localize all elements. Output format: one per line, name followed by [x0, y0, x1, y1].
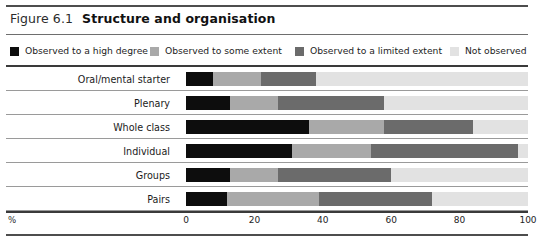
x-axis-unit-label: % [8, 215, 16, 225]
bar-category-label: Plenary [0, 91, 178, 115]
bar-segment[interactable] [186, 168, 230, 182]
chart-bar-row: Plenary [0, 91, 534, 115]
legend-item-label: Observed to some extent [165, 46, 282, 55]
legend-swatch-not-observed [450, 47, 459, 56]
chart-bar-row: Groups [0, 163, 534, 187]
chart-bar-row: Individual [0, 139, 534, 163]
stacked-bar[interactable] [186, 72, 528, 86]
bar-category-label: Pairs [0, 187, 178, 211]
legend-item[interactable]: Observed to a limited extent [295, 43, 442, 59]
stacked-bar[interactable] [186, 144, 528, 158]
bar-segment[interactable] [278, 96, 384, 110]
x-axis-tick-label: 60 [385, 215, 396, 225]
bar-segment[interactable] [213, 72, 261, 86]
legend-swatch-limited-extent [295, 47, 304, 56]
bar-segment[interactable] [186, 96, 230, 110]
legend-item[interactable]: Observed to some extent [150, 43, 282, 59]
bar-category-label: Oral/mental starter [0, 67, 178, 91]
x-axis-tick-label: 40 [317, 215, 328, 225]
bar-segment[interactable] [186, 192, 227, 206]
bar-category-label: Groups [0, 163, 178, 187]
x-axis-line [6, 211, 528, 213]
bar-segment[interactable] [292, 144, 371, 158]
bar-segment[interactable] [186, 120, 309, 134]
legend-item[interactable]: Observed to a high degree [10, 43, 148, 59]
bar-segment[interactable] [384, 96, 528, 110]
bar-segment[interactable] [384, 120, 473, 134]
bar-segment[interactable] [319, 192, 432, 206]
chart-plot-area: Oral/mental starterPlenaryWhole classInd… [0, 67, 534, 212]
title-divider-rule [6, 34, 528, 35]
bar-segment[interactable] [278, 168, 391, 182]
bar-segment[interactable] [186, 72, 213, 86]
bottom-divider-rule [6, 234, 528, 236]
x-axis-tick-label: 80 [454, 215, 465, 225]
legend-item-label: Observed to a high degree [25, 46, 148, 55]
chart-bar-row: Whole class [0, 115, 534, 139]
x-axis-tick-label: 0 [183, 215, 189, 225]
stacked-bar[interactable] [186, 120, 528, 134]
bar-segment[interactable] [227, 192, 319, 206]
bar-segment[interactable] [391, 168, 528, 182]
legend-item-label: Observed to a limited extent [310, 46, 442, 55]
bar-segment[interactable] [186, 144, 292, 158]
figure-title-row: Figure 6.1 Structure and organisation [10, 11, 276, 31]
bar-category-label: Individual [0, 139, 178, 163]
stacked-bar[interactable] [186, 168, 528, 182]
stacked-bar[interactable] [186, 96, 528, 110]
bar-segment[interactable] [518, 144, 528, 158]
figure-number: Figure 6.1 [10, 11, 73, 26]
chart-bar-row: Oral/mental starter [0, 67, 534, 91]
legend-swatch-high-degree [10, 47, 19, 56]
legend-item-label: Not observed [465, 46, 527, 55]
top-divider-rule [6, 5, 528, 7]
bar-category-label: Whole class [0, 115, 178, 139]
bar-segment[interactable] [316, 72, 528, 86]
page-title: Structure and organisation [82, 11, 276, 26]
stacked-bar[interactable] [186, 192, 528, 206]
bar-segment[interactable] [261, 72, 316, 86]
x-axis-tick-label: 20 [249, 215, 260, 225]
bar-segment[interactable] [230, 168, 278, 182]
legend-item[interactable]: Not observed [450, 43, 527, 59]
bar-segment[interactable] [309, 120, 384, 134]
bar-segment[interactable] [371, 144, 518, 158]
bar-segment[interactable] [432, 192, 528, 206]
x-axis-tick-label: 100 [519, 215, 536, 225]
chart-legend: Observed to a high degreeObserved to som… [10, 43, 528, 59]
chart-bar-row: Pairs [0, 187, 534, 211]
bar-segment[interactable] [230, 96, 278, 110]
bar-segment[interactable] [473, 120, 528, 134]
legend-swatch-some-extent [150, 47, 159, 56]
